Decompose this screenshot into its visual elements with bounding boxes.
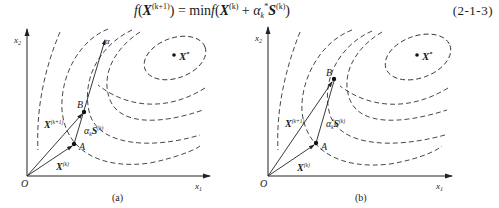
contour-inner-a (138, 28, 212, 87)
figure-canvas: x2 x1 O X* A B α X(k+1) X(k) αkS(k) (a) (0, 0, 499, 208)
contour-1b-a (98, 85, 205, 104)
point-b-label-b: B (326, 67, 332, 78)
contour-outer-left-b (278, 32, 300, 150)
caption-b: (b) (355, 192, 367, 204)
origin-label-b: O (260, 178, 267, 189)
step-segment-b (316, 81, 334, 143)
y-axis-label-a: x2 (13, 35, 21, 46)
optimum-label-a: X* (178, 50, 190, 62)
vector-xk-b (268, 145, 314, 176)
x-axis-label-b: x1 (435, 181, 443, 192)
point-a-marker-b (314, 141, 318, 145)
ray-label-a: α (105, 36, 110, 46)
contour-lines-b (278, 26, 457, 165)
contour-inner-b (379, 26, 457, 89)
vector-xk-label-b: X(k) (296, 162, 310, 173)
y-axis-label-b: x2 (254, 33, 262, 44)
point-a-label-b: A (320, 141, 328, 152)
point-b-label-a: B (77, 99, 83, 110)
figure-b: x2 x1 O X* A B X(k+1) X(k) α*kS(k) (b) (254, 26, 457, 204)
contour-2-b (327, 31, 445, 143)
optimum-marker-b (415, 53, 419, 57)
contour-lines-a (38, 28, 212, 164)
step-label-b: α*kS(k) (326, 118, 345, 130)
point-b-marker-b (332, 77, 336, 81)
vector-xk1-label-a: X(k+1) (43, 119, 63, 130)
optimum-marker-a (172, 53, 176, 57)
x-axis-label-a: x1 (194, 181, 202, 192)
contour-2-a (87, 30, 200, 143)
contour-1b-b (340, 86, 448, 104)
point-a-marker-a (72, 142, 76, 146)
figure-a: x2 x1 O X* A B α X(k+1) X(k) αkS(k) (a) (13, 28, 212, 204)
contour-outer-left-a (38, 32, 60, 150)
contour-1-a (107, 32, 203, 120)
optimum-label-b: X* (421, 50, 433, 62)
point-b-marker-a (82, 110, 86, 114)
vector-xk-label-a: X(k) (55, 161, 69, 172)
point-a-label-a: A (78, 141, 86, 152)
caption-a: (a) (112, 192, 123, 204)
origin-label-a: O (21, 178, 28, 189)
step-label-a: αkS(k) (84, 125, 104, 137)
